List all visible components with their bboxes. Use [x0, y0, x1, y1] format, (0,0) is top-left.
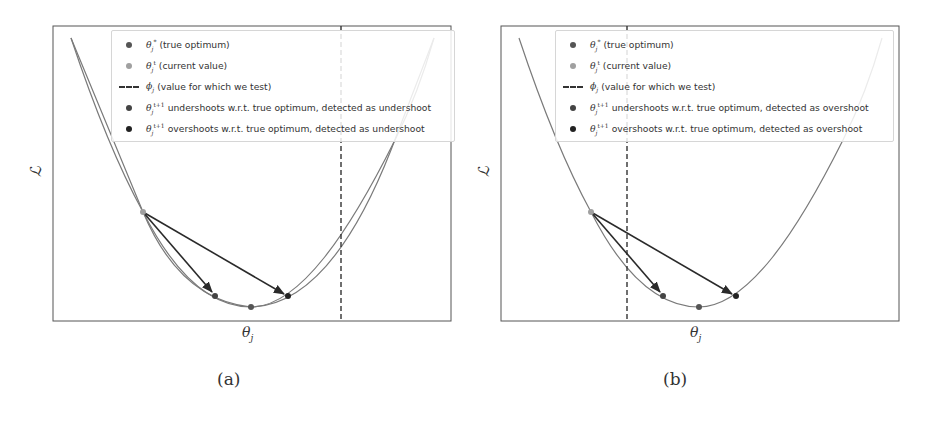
dot-icon: [570, 42, 576, 48]
legend-label: overshoots w.r.t. true optimum, detected…: [612, 123, 863, 134]
legend-label: (current value): [159, 60, 227, 71]
figure-panel-a: θj* (true optimum) θjt (current value) ϕ…: [0, 0, 465, 424]
legend: θj* (true optimum) θjt (current value) ϕ…: [555, 30, 894, 142]
legend-item-test-value: ϕj (value for which we test): [562, 76, 887, 97]
dashed-line-icon: [119, 86, 139, 88]
legend: θj* (true optimum) θjt (current value) ϕ…: [111, 30, 455, 142]
panel-caption: (b): [663, 369, 687, 389]
legend-label: (value for which we test): [157, 81, 271, 92]
legend-label: overshoots w.r.t. true optimum, detected…: [168, 123, 425, 134]
dot-icon: [570, 105, 576, 111]
dot-icon: [126, 105, 132, 111]
true-optimum-point: [696, 304, 702, 310]
legend-label: (value for which we test): [601, 81, 715, 92]
arrow-to-overshoot: [143, 212, 284, 294]
dot-icon: [126, 126, 132, 132]
legend-item-true-optimum: θj* (true optimum): [118, 34, 448, 55]
arrow-to-undershoot: [143, 212, 212, 292]
dot-icon: [126, 63, 132, 69]
arrow-to-overshoot: [591, 212, 732, 294]
legend-label: undershoots w.r.t. true optimum, detecte…: [612, 102, 869, 113]
x-axis-label: θj: [690, 324, 701, 343]
dashed-line-icon: [563, 86, 583, 88]
legend-item-overshoot: θjt+1 overshoots w.r.t. true optimum, de…: [118, 118, 448, 139]
overshoot-point: [733, 293, 739, 299]
legend-item-current-value: θjt (current value): [562, 55, 887, 76]
undershoot-point: [212, 293, 218, 299]
dot-icon: [570, 126, 576, 132]
current-value-point: [140, 209, 146, 215]
legend-item-overshoot: θjt+1 overshoots w.r.t. true optimum, de…: [562, 118, 887, 139]
y-axis-label: ℒ: [27, 166, 45, 177]
current-value-point: [588, 209, 594, 215]
overshoot-point: [285, 293, 291, 299]
legend-label: (true optimum): [603, 39, 673, 50]
legend-item-true-optimum: θj* (true optimum): [562, 34, 887, 55]
legend-item-test-value: ϕj (value for which we test): [118, 76, 448, 97]
x-axis-label: θj: [242, 324, 253, 343]
legend-item-undershoot: θjt+1 undershoots w.r.t. true optimum, d…: [118, 97, 448, 118]
dot-icon: [570, 63, 576, 69]
legend-label: (current value): [603, 60, 671, 71]
figure-panel-b: θj* (true optimum) θjt (current value) ϕ…: [448, 0, 913, 424]
panel-caption: (a): [217, 369, 240, 389]
legend-label: (true optimum): [159, 39, 229, 50]
dot-icon: [126, 42, 132, 48]
legend-item-current-value: θjt (current value): [118, 55, 448, 76]
legend-item-undershoot: θjt+1 undershoots w.r.t. true optimum, d…: [562, 97, 887, 118]
legend-label: undershoots w.r.t. true optimum, detecte…: [168, 102, 431, 113]
true-optimum-point: [248, 304, 254, 310]
undershoot-point: [660, 293, 666, 299]
arrow-to-undershoot: [591, 212, 660, 292]
y-axis-label: ℒ: [475, 166, 493, 177]
